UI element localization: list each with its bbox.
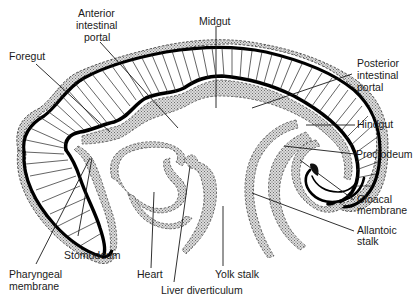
label-hindgut: Hindgut	[357, 118, 393, 130]
label-foregut: Foregut	[9, 50, 45, 62]
label-stomodeum: Stomodeum	[64, 249, 121, 261]
label-heart: Heart	[137, 268, 163, 280]
embryo-gut-diagram: Anterior intestinal portal Midgut Foregu…	[0, 0, 413, 304]
foregut-floor	[74, 146, 117, 250]
label-anterior-intestinal-portal-1: Anterior	[78, 7, 115, 19]
label-pharyngeal-membrane-2: membrane	[9, 280, 59, 292]
label-posterior-intestinal-portal-2: intestinal	[357, 69, 398, 81]
label-midgut: Midgut	[199, 15, 231, 27]
label-anterior-intestinal-portal-3: portal	[84, 31, 110, 43]
outer-ectoderm-band	[17, 40, 388, 212]
label-allantoic-stalk-2: stalk	[357, 235, 379, 247]
heart-tube	[111, 142, 193, 229]
label-posterior-intestinal-portal-3: portal	[357, 81, 383, 93]
label-yolk-stalk: Yolk stalk	[215, 268, 260, 280]
liver-diverticulum-shape	[182, 155, 217, 254]
label-proctodeum: Proctodeum	[356, 148, 413, 160]
label-pharyngeal-membrane-1: Pharyngeal	[9, 268, 62, 280]
label-posterior-intestinal-portal-1: Posterior	[357, 57, 400, 69]
label-liver-diverticulum: Liver diverticulum	[161, 284, 243, 296]
labels: Anterior intestinal portal Midgut Foregu…	[9, 7, 413, 296]
label-cloacal-membrane-2: membrane	[357, 204, 407, 216]
pharynx-wall-line	[66, 150, 105, 254]
cloaca-lines	[306, 164, 364, 202]
label-anterior-intestinal-portal-2: intestinal	[76, 19, 117, 31]
